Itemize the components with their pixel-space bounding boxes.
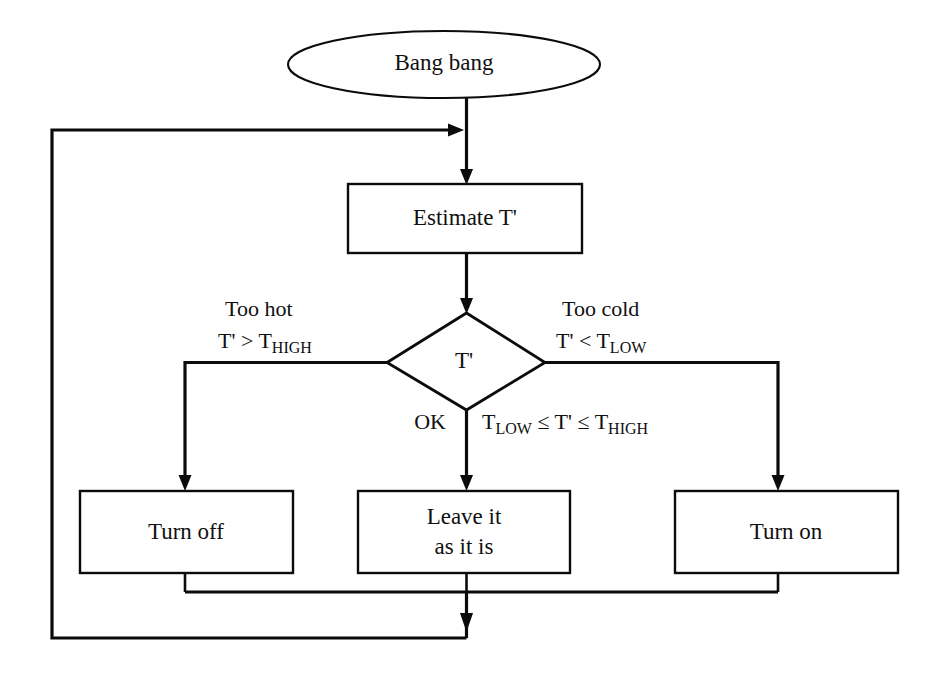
leave-it-label-line1: Leave it: [427, 504, 502, 529]
edge-label-in-range: TLOW ≤ T' ≤ THIGH: [482, 409, 649, 437]
arrowhead-icon: [460, 613, 473, 632]
node-estimate[interactable]: Estimate T': [348, 184, 582, 253]
arrowhead-icon: [179, 475, 192, 491]
edge-line: [185, 363, 387, 483]
start-label: Bang bang: [394, 50, 494, 75]
too-hot-condition: T' > THIGH: [218, 328, 312, 356]
edge-decision-to-turn-off: [179, 363, 388, 492]
in-range-low-subscript: LOW: [495, 420, 532, 437]
too-cold-cond-subscript: LOW: [610, 339, 647, 356]
edge-outputs-to-bus: [185, 573, 778, 592]
flowchart-canvas: Bang bang Estimate T' T' Turn off Leave …: [0, 0, 931, 676]
too-cold-condition: T' < TLOW: [556, 328, 647, 356]
edge-estimate-to-decision: [460, 253, 473, 314]
in-range-condition: TLOW ≤ T' ≤ THIGH: [482, 409, 649, 437]
edge-bus-to-return: [460, 592, 473, 638]
node-leave-it[interactable]: Leave it as it is: [358, 491, 570, 573]
arrowhead-icon: [448, 124, 464, 137]
too-hot-cond-subscript: HIGH: [272, 339, 312, 356]
flowchart-svg: Bang bang Estimate T' T' Turn off Leave …: [0, 0, 931, 676]
edge-decision-to-leave-it: [460, 410, 473, 491]
too-hot-cond-prefix: T' > T: [218, 328, 272, 353]
node-turn-on[interactable]: Turn on: [675, 491, 898, 573]
in-range-t-low: T: [482, 409, 496, 434]
node-turn-off[interactable]: Turn off: [80, 491, 293, 573]
edge-label-too-cold: Too cold T' < TLOW: [556, 296, 647, 356]
arrowhead-icon: [772, 475, 785, 491]
edge-label-too-hot: Too hot T' > THIGH: [218, 296, 312, 356]
decision-label: T': [455, 348, 473, 373]
too-hot-label-line1: Too hot: [225, 296, 293, 321]
edge-label-ok: OK: [414, 409, 446, 434]
too-cold-cond-prefix: T' < T: [556, 328, 610, 353]
ok-label: OK: [414, 409, 446, 434]
arrowhead-icon: [460, 475, 473, 491]
node-decision[interactable]: T': [387, 313, 545, 410]
in-range-middle: ≤ T' ≤ T: [532, 409, 609, 434]
too-cold-label-line1: Too cold: [562, 296, 639, 321]
turn-off-label: Turn off: [148, 519, 224, 544]
arrowhead-icon: [460, 169, 473, 185]
in-range-high-subscript: HIGH: [608, 420, 648, 437]
node-start[interactable]: Bang bang: [288, 31, 600, 98]
leave-it-label-line2: as it is: [435, 534, 494, 559]
turn-on-label: Turn on: [750, 519, 823, 544]
estimate-label: Estimate T': [413, 205, 517, 230]
edge-start-to-estimate: [460, 98, 473, 185]
